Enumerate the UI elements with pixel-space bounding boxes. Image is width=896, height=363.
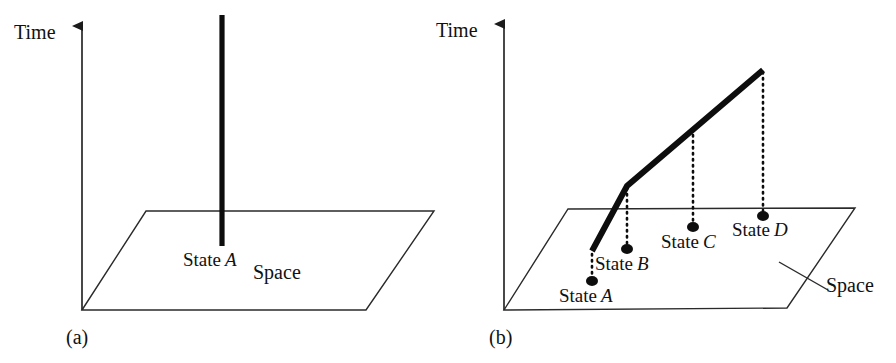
panel-b-space-plane: [504, 208, 855, 310]
panel-b-state-c-prefix: State: [661, 231, 699, 252]
panel-b-state-b-name: B: [633, 253, 649, 274]
figure-canvas: [0, 0, 896, 363]
panel-b-space-plane-label: Space: [826, 275, 874, 295]
panel-b-time-axis-label: Time: [436, 20, 478, 40]
panel-a-time-axis-label: Time: [14, 22, 56, 42]
panel-a-state-a-name: A: [221, 249, 237, 270]
panel-a-caption: (a): [66, 326, 88, 349]
panel-a-state-a-prefix: State: [183, 249, 221, 270]
panel-b-state-c-name: C: [699, 231, 716, 252]
panel-b-state-c-label: StateC: [661, 232, 716, 251]
panel-b-space-leader: [779, 262, 828, 290]
panel-b-state-d-name: D: [770, 219, 788, 240]
panel-b-state-a-label: StateA: [559, 286, 613, 305]
panel-b-caption: (b): [489, 326, 512, 349]
panel-a-space-plane-label: Space: [253, 262, 301, 282]
panel-b-state-d-prefix: State: [732, 219, 770, 240]
panel-a-state-a-label: StateA: [183, 250, 237, 269]
panel-b-state-a-prefix: State: [559, 285, 597, 306]
spacetime-worldline-figure: Time Space StateA (a) Time Space StateA …: [0, 0, 896, 363]
panel-b-state-b-label: StateB: [595, 254, 649, 273]
panel-b-state-b-prefix: State: [595, 253, 633, 274]
panel-b-group: [504, 24, 855, 310]
panel-b-state-d-label: StateD: [732, 220, 788, 239]
panel-b-state-a-name: A: [597, 285, 613, 306]
